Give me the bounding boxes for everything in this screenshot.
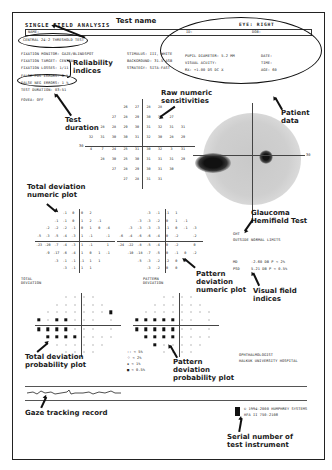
prob-dot — [182, 337, 183, 338]
grid-value: -1 — [106, 251, 110, 255]
grid-value: 30 — [146, 115, 150, 119]
grid-value: 31 — [181, 147, 185, 151]
physician-block: OPHTHALMOLOGIST HALKUK UNIVERSITY HOSPIT… — [239, 352, 298, 364]
grid-value: 0 — [81, 211, 83, 215]
prob-dot — [93, 352, 94, 353]
prob-dot — [191, 304, 192, 305]
grid-value: 30 — [135, 157, 139, 161]
grey-axis-horizontal — [193, 155, 305, 156]
grid-value: -1 — [183, 219, 187, 223]
grid-value: 25 — [123, 157, 127, 161]
prob-dot — [84, 344, 85, 345]
grid-value: 27 — [112, 167, 116, 171]
prob-dot — [173, 304, 174, 305]
prob-dot — [93, 312, 94, 313]
psd-value: 5.21 DB P < 0.5% — [251, 267, 287, 271]
prob-dot — [66, 297, 67, 298]
grid-value: -3 — [156, 226, 160, 230]
visual-field-report: SINGLE FIELD ANALYSIS NAME: ID: DOB: EYE… — [12, 12, 325, 460]
md-value: -2.60 DB P < 2% — [251, 260, 285, 264]
annotation-pattern-dev-numeric: Pattern deviation numeric plot — [196, 270, 246, 294]
grid-value: -2 — [46, 226, 50, 230]
prob-dot — [200, 344, 201, 345]
grid-value: -3 — [137, 219, 141, 223]
prob-dot — [84, 329, 85, 330]
grid-value: 28 — [123, 115, 127, 119]
grid-value: 0 — [166, 251, 168, 255]
ght-value: OUTSIDE NORMAL LIMITS — [233, 237, 281, 243]
grid-value: 0 — [166, 243, 168, 247]
grid-value: -7 — [54, 243, 58, 247]
patient-data-ellipse — [160, 17, 322, 84]
grid-value: 0 — [90, 251, 92, 255]
pattern-deviation-probability-plot — [133, 293, 219, 357]
prob-dot — [182, 304, 183, 305]
prob-dot — [102, 344, 103, 345]
md-row: MD-2.60 DB P < 2% — [233, 259, 287, 266]
grid-value: -3 — [71, 234, 75, 238]
grid-value: 31 — [169, 125, 173, 129]
probability-legend: :: < 5% ⁘ < 2% ▪ < 1% ■ < 0.5% — [127, 349, 145, 373]
grid-value: 31 — [158, 177, 162, 181]
prob-dot — [173, 312, 174, 313]
grid-value: -3 — [128, 226, 132, 230]
raw-30-label: 30 — [79, 144, 84, 148]
grid-value: -4 — [63, 243, 67, 247]
prob-dot — [182, 344, 183, 345]
grid-value: 30 — [112, 135, 116, 139]
grid-value: 1 — [98, 259, 100, 263]
prob-square — [153, 328, 156, 331]
prob-square — [153, 318, 156, 321]
grid-value: 26 — [123, 105, 127, 109]
grid-value: -2 — [156, 259, 160, 263]
grid-value: -3 — [63, 266, 67, 270]
grid-value: -2 — [63, 226, 67, 230]
grid-value: 0 — [194, 243, 196, 247]
grid-value: -1 — [174, 251, 178, 255]
prob-square — [171, 335, 174, 338]
prob-dot — [48, 319, 49, 320]
annotation-patient-data: Patient data — [281, 109, 310, 125]
grid-value: -3 — [46, 234, 50, 238]
grid-value: 31 — [169, 157, 173, 161]
grid-value: -7 — [147, 251, 151, 255]
prob-square — [55, 318, 58, 321]
prob-dot — [209, 329, 210, 330]
grid-value: 31 — [146, 125, 150, 129]
pattern-deviation-title: PATTERN DEVIATION — [143, 277, 163, 285]
annotation-pattern-dev-prob: Pattern deviation probability plot — [173, 358, 234, 382]
grid-value: -18 — [136, 251, 142, 255]
grid-value: 1 — [81, 243, 83, 247]
grid-value: 1 — [81, 266, 83, 270]
prob-square — [171, 328, 174, 331]
grid-value: 30 — [123, 135, 127, 139]
prob-dot — [155, 304, 156, 305]
prob-dot — [111, 337, 112, 338]
grid-value: -3 — [193, 226, 197, 230]
prob-dot — [182, 329, 183, 330]
prob-square — [153, 343, 156, 346]
grid-value: 30 — [135, 125, 139, 129]
grid-value: 28 — [146, 105, 150, 109]
grid-value: -1 — [165, 211, 169, 215]
total-deviation-title-line2: DEVIATION — [21, 281, 41, 285]
prob-square — [144, 328, 147, 331]
annotation-gaze-tracking: Gaze tracking record — [25, 409, 108, 417]
prob-dot — [93, 344, 94, 345]
grid-value: -1 — [165, 226, 169, 230]
prob-dot — [164, 312, 165, 313]
grid-value: -1 — [89, 243, 93, 247]
grid-value: 28 — [135, 177, 139, 181]
prob-dot — [155, 312, 156, 313]
grid-value: -3 — [137, 226, 141, 230]
prob-square — [64, 318, 67, 321]
grid-value: 1 — [90, 226, 92, 230]
prob-square — [171, 318, 174, 321]
gaze-tracking-trace — [27, 387, 123, 399]
param-fixation-monitor: FIXATION MONITOR: GAZE/BLINDSPOT — [21, 51, 93, 58]
grid-value: -6 — [63, 251, 67, 255]
annotation-test-name: Test name — [116, 17, 156, 25]
prob-dot — [111, 329, 112, 330]
grid-value: 30 — [158, 135, 162, 139]
grid-value: -1 — [63, 259, 67, 263]
